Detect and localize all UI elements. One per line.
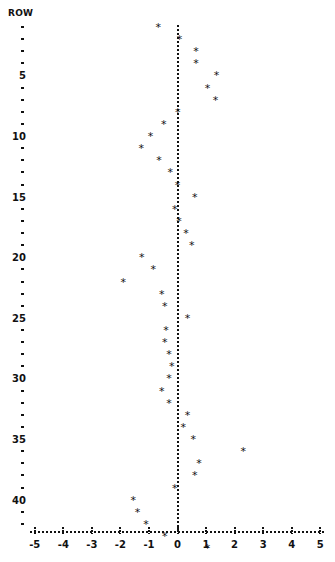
data-point-marker: * <box>175 179 181 190</box>
data-point-marker: * <box>214 70 220 81</box>
data-point-marker: * <box>172 203 178 214</box>
y-axis-tick <box>21 99 24 101</box>
y-axis-tick <box>21 220 24 222</box>
y-axis-tick <box>21 26 24 28</box>
x-axis-label: 4 <box>288 539 295 550</box>
data-point-marker: * <box>176 215 182 226</box>
data-point-marker: * <box>190 434 196 445</box>
x-axis-label: 0 <box>174 539 181 550</box>
data-point-marker: * <box>162 531 168 542</box>
x-axis-tick <box>234 527 236 534</box>
y-axis-label: 30 <box>4 373 26 384</box>
data-point-marker: * <box>193 58 199 69</box>
y-axis-label: 5 <box>4 70 26 81</box>
data-point-marker: * <box>205 543 211 554</box>
x-axis-label: -5 <box>29 539 40 550</box>
data-point-marker: * <box>148 131 154 142</box>
data-point-marker: * <box>166 397 172 408</box>
data-point-marker: * <box>159 288 165 299</box>
data-point-marker: * <box>175 106 181 117</box>
data-point-marker: * <box>183 228 189 239</box>
y-axis-tick <box>21 402 24 404</box>
y-axis-tick <box>21 62 24 64</box>
x-axis-tick <box>62 527 64 534</box>
y-axis-tick <box>21 87 24 89</box>
data-point-marker: * <box>130 494 136 505</box>
y-axis-label: 20 <box>4 252 26 263</box>
data-point-marker: * <box>177 34 183 45</box>
x-axis-label: -3 <box>86 539 97 550</box>
x-axis-tick <box>319 527 321 534</box>
y-axis-title: ROW <box>8 8 33 18</box>
y-axis-tick <box>21 426 24 428</box>
y-axis-label: 25 <box>4 312 26 323</box>
data-point-marker: * <box>180 421 186 432</box>
x-axis-label: 3 <box>260 539 267 550</box>
y-axis-label: 40 <box>4 494 26 505</box>
y-axis-tick <box>21 365 24 367</box>
data-point-marker: * <box>139 252 145 263</box>
y-axis-tick <box>21 474 24 476</box>
y-axis-tick <box>21 390 24 392</box>
data-point-marker: * <box>162 300 168 311</box>
y-axis-tick <box>21 159 24 161</box>
y-axis-tick <box>21 111 24 113</box>
y-axis-tick <box>21 341 24 343</box>
data-point-marker: * <box>192 191 198 202</box>
y-axis-tick <box>21 511 24 513</box>
data-point-marker: * <box>169 361 175 372</box>
data-point-marker: * <box>196 458 202 469</box>
data-point-marker: * <box>121 276 127 287</box>
data-point-marker: * <box>156 22 162 33</box>
x-axis-tick <box>205 527 207 534</box>
y-axis-tick <box>21 123 24 125</box>
y-axis-tick <box>21 450 24 452</box>
y-axis-tick <box>21 281 24 283</box>
data-point-marker: * <box>192 470 198 481</box>
y-axis-tick <box>21 305 24 307</box>
data-point-marker: * <box>172 482 178 493</box>
data-point-marker: * <box>213 94 219 105</box>
y-axis-tick <box>21 184 24 186</box>
x-axis-tick <box>262 527 264 534</box>
x-axis-label: -4 <box>58 539 69 550</box>
y-axis-tick <box>21 353 24 355</box>
y-axis-label: 35 <box>4 434 26 445</box>
y-axis-tick <box>21 329 24 331</box>
y-axis-tick <box>21 414 24 416</box>
y-axis-tick <box>21 38 24 40</box>
x-axis-tick <box>291 527 293 534</box>
y-axis-tick <box>21 268 24 270</box>
y-axis-tick <box>21 293 24 295</box>
y-axis-tick <box>21 462 24 464</box>
y-axis-label: 10 <box>4 131 26 142</box>
data-point-marker: * <box>150 264 156 275</box>
x-axis-label: -1 <box>143 539 154 550</box>
x-axis-label: 2 <box>231 539 238 550</box>
y-axis-tick <box>21 208 24 210</box>
zero-reference-line <box>177 24 179 531</box>
data-point-marker: * <box>163 325 169 336</box>
character-scatter-plot: ROW 510152025303540 -5-4-3-2-1012345 ***… <box>0 0 335 562</box>
x-axis-tick <box>119 527 121 534</box>
y-axis-tick <box>21 487 24 489</box>
y-axis-label: 15 <box>4 191 26 202</box>
data-point-marker: * <box>185 409 191 420</box>
data-point-marker: * <box>156 155 162 166</box>
data-point-marker: * <box>135 506 141 517</box>
data-point-marker: * <box>185 312 191 323</box>
data-point-marker: * <box>159 385 165 396</box>
y-axis-tick <box>21 244 24 246</box>
data-point-marker: * <box>138 143 144 154</box>
x-axis-label: -2 <box>115 539 126 550</box>
data-point-marker: * <box>240 446 246 457</box>
y-axis-tick <box>21 50 24 52</box>
data-point-marker: * <box>161 118 167 129</box>
data-point-marker: * <box>168 167 174 178</box>
y-axis-tick <box>21 232 24 234</box>
data-point-marker: * <box>162 337 168 348</box>
data-point-marker: * <box>143 518 149 529</box>
y-axis-tick <box>21 147 24 149</box>
data-point-marker: * <box>166 373 172 384</box>
y-axis-tick <box>21 523 24 525</box>
